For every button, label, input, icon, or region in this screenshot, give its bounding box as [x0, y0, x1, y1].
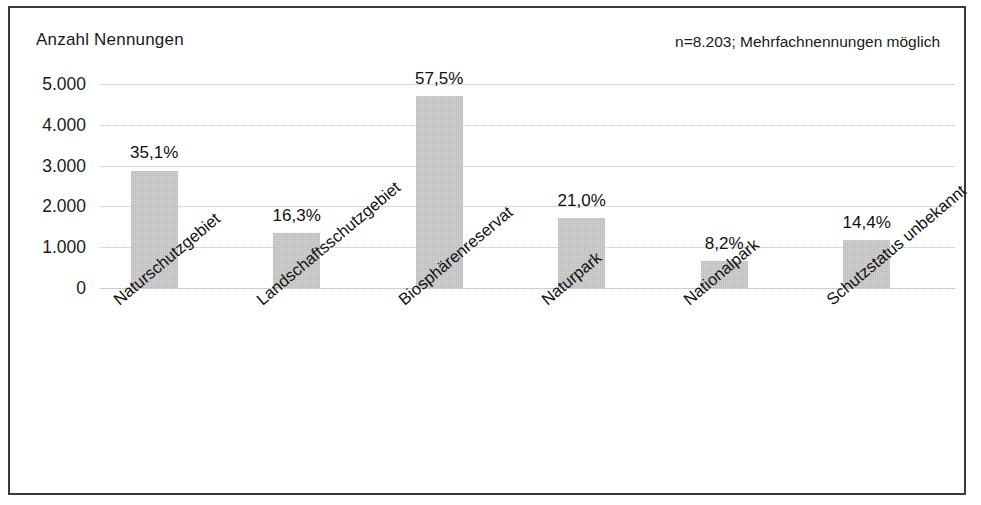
- gridline-2000: [100, 206, 955, 207]
- y-tick-label: 5.000: [8, 74, 86, 95]
- y-tick-label: 2.000: [8, 196, 86, 217]
- bar-value-label: 16,3%: [273, 206, 321, 226]
- y-tick-label: 1.000: [8, 237, 86, 258]
- sample-size-annotation: n=8.203; Mehrfachnennungen möglich: [675, 33, 940, 51]
- y-tick-label: 3.000: [8, 155, 86, 176]
- y-axis-title: Anzahl Nennungen: [36, 30, 184, 50]
- bar-value-label: 35,1%: [130, 143, 178, 163]
- y-tick-label: 4.000: [8, 114, 86, 135]
- bar-value-label: 21,0%: [558, 191, 606, 211]
- bar-value-label: 14,4%: [843, 213, 891, 233]
- y-axis-tick-labels: 5.0004.0003.0002.0001.0000: [6, 84, 86, 288]
- gridline-1000: [100, 247, 955, 248]
- x-axis-category-labels: NaturschutzgebietLandschaftsschutzgebiet…: [0, 290, 981, 500]
- gridline-5000: [100, 84, 955, 85]
- bar-value-label: 57,5%: [415, 69, 463, 89]
- chart-figure: Anzahl Nennungen n=8.203; Mehrfachnennun…: [0, 0, 981, 505]
- plot-area: [100, 84, 955, 288]
- gridline-3000: [100, 166, 955, 167]
- gridline-4000: [100, 125, 955, 126]
- gridline-0: [100, 288, 955, 289]
